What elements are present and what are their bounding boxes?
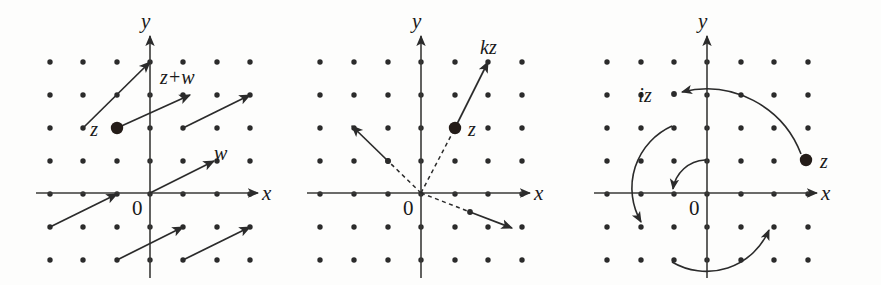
panel-addition-canvas: z z+w w x y 0 <box>0 0 294 285</box>
label-origin: 0 <box>403 196 414 220</box>
vector-z-to-z-plus-w <box>117 95 190 128</box>
rotation-arc-outer-z-to-iz <box>682 89 801 154</box>
ray-origin-to-z <box>421 128 455 193</box>
label-z: z <box>467 118 476 140</box>
ray-point-lower-right <box>467 209 473 215</box>
rotation-arc-bottom <box>672 230 769 271</box>
panel-scaling: kz z x y 0 <box>294 0 588 285</box>
label-z: z <box>89 118 98 140</box>
point-iz <box>671 91 677 97</box>
label-w: w <box>214 142 228 164</box>
rotation-arc-inner <box>673 160 705 189</box>
label-origin: 0 <box>689 196 700 220</box>
point-z <box>800 154 812 166</box>
rotation-arc-middle <box>632 126 672 222</box>
label-y-axis: y <box>139 9 151 33</box>
label-z-plus-w: z+w <box>159 66 195 88</box>
label-x-axis: x <box>533 181 544 205</box>
label-y-axis: y <box>696 9 708 33</box>
vector-w <box>150 161 214 193</box>
label-iz: iz <box>638 84 652 106</box>
label-x-axis: x <box>261 181 272 205</box>
complex-plane-figure: z z+w w x y 0 <box>0 0 881 285</box>
label-z: z <box>819 150 828 172</box>
label-y-axis: y <box>410 9 422 33</box>
ray-origin-lower-right <box>421 193 470 212</box>
point-z <box>449 122 461 134</box>
translation-left <box>50 194 117 227</box>
translation-upper-right <box>183 95 250 128</box>
scaled-vector-lower-right <box>470 212 512 228</box>
point-z <box>111 122 123 134</box>
translation-lower-right <box>183 227 250 260</box>
panel-scaling-canvas: kz z x y 0 <box>294 0 588 285</box>
scaled-vector-upper-left <box>352 126 388 161</box>
panel-rotation-canvas: iz z x y 0 <box>588 0 881 285</box>
ray-point-upper-left <box>385 158 391 164</box>
label-origin: 0 <box>132 196 143 220</box>
label-kz: kz <box>480 36 497 58</box>
panel-rotation: iz z x y 0 <box>588 0 881 285</box>
ray-origin-upper-left <box>388 161 421 193</box>
label-x-axis: x <box>820 181 831 205</box>
panel-addition: z z+w w x y 0 <box>0 0 294 285</box>
